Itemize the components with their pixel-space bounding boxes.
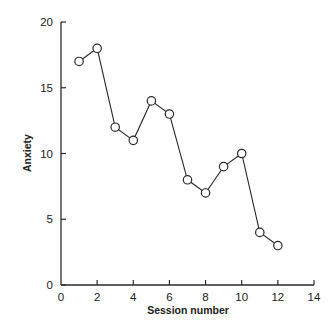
x-tick-label: 12 [271, 291, 284, 303]
x-tick-label: 10 [235, 291, 248, 303]
x-tick-label: 8 [202, 291, 208, 303]
y-tick-label: 0 [47, 279, 53, 291]
y-tick-label: 15 [40, 82, 53, 94]
x-tick-label: 4 [130, 291, 137, 303]
data-point-marker [129, 136, 137, 144]
data-point-marker [274, 241, 282, 249]
y-axis-ticks: 05101520 [40, 16, 66, 291]
y-tick-label: 10 [40, 148, 53, 160]
series-line [79, 48, 278, 245]
data-point-marker [111, 123, 119, 131]
x-tick-label: 14 [308, 291, 321, 303]
data-series [75, 44, 282, 250]
x-axis-ticks: 02468101214 [58, 280, 321, 303]
data-point-marker [201, 189, 209, 197]
data-point-marker [219, 162, 227, 170]
line-chart: 05101520 02468101214 Session number Anxi… [0, 0, 335, 333]
y-tick-label: 5 [47, 213, 53, 225]
x-tick-label: 0 [58, 291, 64, 303]
y-tick-label: 20 [40, 16, 53, 28]
x-tick-label: 2 [94, 291, 100, 303]
chart-canvas: 05101520 02468101214 Session number Anxi… [0, 0, 335, 333]
data-point-marker [256, 228, 264, 236]
y-axis-title: Anxiety [21, 134, 33, 172]
data-point-marker [165, 110, 173, 118]
data-point-marker [93, 44, 101, 52]
x-tick-label: 6 [166, 291, 172, 303]
data-point-marker [183, 176, 191, 184]
data-point-marker [75, 57, 83, 65]
data-point-marker [147, 97, 155, 105]
data-point-marker [238, 149, 246, 157]
x-axis-title: Session number [147, 304, 229, 316]
